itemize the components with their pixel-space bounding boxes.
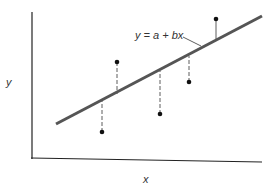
- x-axis: [31, 158, 262, 162]
- y-axis-label: y: [5, 76, 13, 88]
- regression-diagram: y = a + bx y x: [0, 0, 266, 185]
- equation-pointer: [183, 37, 201, 46]
- equation-label: y = a + bx: [134, 29, 184, 41]
- x-axis-label: x: [142, 173, 149, 185]
